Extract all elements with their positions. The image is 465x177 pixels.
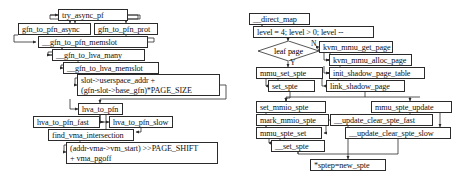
node-mmu-spte-update[interactable]: mmu_spte_update	[371, 101, 452, 113]
node-loop-header[interactable]: level = 4; level > 0; level --	[253, 26, 374, 38]
node-set-mmio-spte[interactable]: set_mmio_spte	[256, 101, 326, 113]
node-gfn-to-pfn-prot[interactable]: gfn_to_pfn_prot	[94, 23, 158, 35]
node-gfn-to-hva-memslot[interactable]: __gfn_to_hva_memslot	[63, 62, 159, 74]
decision-leaf-page[interactable]: leaf page	[258, 41, 319, 61]
node-try-async-pf[interactable]: try_async_pf	[58, 9, 128, 21]
node-set-spte[interactable]: set_spte	[268, 80, 315, 92]
node-hva-to-pfn-slow[interactable]: hva_to_pfn_slow	[109, 116, 173, 128]
node-update-clear-spte-fast[interactable]: __update_clear_spte_fast	[330, 114, 433, 126]
node-gfn-to-pfn-memslot[interactable]: __gfn_to_pfn_memslot	[38, 36, 148, 48]
node-hva-to-pfn-fast[interactable]: hva_to_pfn_fast	[33, 116, 100, 128]
node-mmu-spte-set[interactable]: mmu_spte_set	[256, 127, 322, 139]
node-find-vma-intersection[interactable]: find_vma_intersection	[48, 129, 134, 141]
pgoff-calc-line-2: + vma_pgoff	[70, 154, 214, 164]
pgoff-calc-line-1: (addr-vma->vm_start) >>PAGE_SHIFT	[70, 144, 214, 154]
hva-calc-line-1: slot->userspace_addr +	[81, 76, 216, 86]
node-pgoff-calculation[interactable]: (addr-vma->vm_start) >>PAGE_SHIFT + vma_…	[66, 142, 218, 164]
hva-calc-line-2: (gfn-slot->base_gfn)*PAGE_SIZE	[81, 86, 216, 96]
node-set-spte-low[interactable]: __set_spte	[271, 140, 325, 152]
node-hva-address-calculation[interactable]: slot->userspace_addr + (gfn-slot->base_g…	[77, 74, 220, 96]
diagram-canvas: try_async_pf gfn_to_pfn_async gfn_to_pfn…	[0, 0, 465, 177]
branch-label-no: N	[311, 39, 316, 48]
node-gfn-to-hva-many[interactable]: __gfn_to_hva_many	[52, 49, 145, 61]
node-mark-mmio-spte[interactable]: mark_mmio_spte	[256, 114, 329, 126]
node-direct-map[interactable]: __direct_map	[249, 13, 310, 25]
branch-label-yes: Y	[290, 58, 295, 67]
node-mmu-set-spte[interactable]: mmu_set_spte	[256, 67, 323, 79]
node-update-clear-spte-slow[interactable]: __update_clear_spte_slow	[345, 127, 451, 139]
node-hva-to-pfn[interactable]: hva_to_pfn	[78, 103, 123, 115]
decision-leaf-page-label: leaf page	[258, 41, 319, 61]
node-kvm-mmu-alloc-page[interactable]: kvm_mmu_alloc_page	[329, 54, 412, 66]
node-init-shadow-page-table[interactable]: init_shadow_page_table	[329, 67, 425, 79]
node-kvm-mmu-get-page[interactable]: kvm_mmu_get_page	[319, 41, 393, 53]
node-link-shadow-page[interactable]: link_shadow_page	[326, 80, 405, 92]
node-sptep-assign-new-spte[interactable]: *sptep=new_spte	[310, 159, 386, 171]
node-gfn-to-pfn-async[interactable]: gfn_to_pfn_async	[18, 23, 91, 35]
